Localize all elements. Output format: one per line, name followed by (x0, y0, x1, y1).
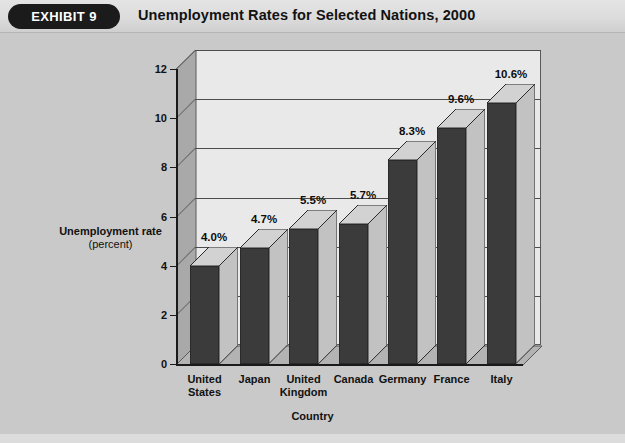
y-tick-label: 6 (161, 211, 167, 223)
bar-top-face (240, 229, 269, 248)
bar-front-face (240, 248, 269, 364)
exhibit-title: Unemployment Rates for Selected Nations,… (138, 7, 475, 23)
bar-top-face (339, 205, 368, 224)
bar-side-face (368, 205, 387, 364)
bar-front-face (487, 103, 516, 364)
y-tick-label: 8 (161, 161, 167, 173)
bar[interactable] (289, 210, 318, 364)
bar-value-label: 5.5% (300, 194, 326, 206)
chart-area: Unemployment rate (percent) 024681012 4.… (0, 33, 625, 443)
bar[interactable] (388, 141, 417, 364)
bar-side-face (318, 210, 337, 364)
bar-top-face (388, 141, 417, 160)
exhibit-badge: EXHIBIT 9 (8, 4, 120, 29)
x-axis-label-line: Kingdom (269, 386, 339, 399)
bar-front-face (339, 224, 368, 364)
x-axis-line (176, 364, 523, 366)
y-tick-mark (170, 266, 176, 267)
bar-value-label: 4.7% (251, 213, 277, 225)
exhibit-header: EXHIBIT 9 Unemployment Rates for Selecte… (0, 0, 625, 33)
bar-front-face (437, 128, 466, 364)
bar-value-label: 10.6% (495, 68, 528, 80)
bar-front-face (190, 266, 219, 364)
x-axis-label-line: States (170, 386, 240, 399)
footer-sliver (0, 434, 625, 443)
bar-top-face (487, 84, 516, 103)
y-tick-mark (170, 217, 176, 218)
y-tick-mark (170, 69, 176, 70)
y-axis-title: Unemployment rate (percent) (58, 225, 163, 250)
bar[interactable] (437, 109, 466, 364)
y-tick-mark (170, 167, 176, 168)
y-tick-label: 12 (155, 63, 167, 75)
y-axis-title-main: Unemployment rate (58, 225, 163, 238)
y-tick-mark (170, 315, 176, 316)
bar-top-face (437, 109, 466, 128)
x-axis-label-line: Italy (467, 373, 537, 386)
bar-top-face (289, 210, 318, 229)
gridline (195, 50, 541, 51)
bar-value-label: 9.6% (448, 93, 474, 105)
y-tick-mark (170, 364, 176, 365)
bar[interactable] (339, 205, 368, 364)
y-tick-label: 0 (161, 358, 167, 370)
y-tick-label: 4 (161, 260, 167, 272)
bar-side-face (417, 141, 436, 364)
bar-value-label: 4.0% (201, 231, 227, 243)
bar[interactable] (240, 229, 269, 364)
bar-value-label: 8.3% (399, 125, 425, 137)
y-axis-title-unit: (percent) (58, 238, 163, 251)
bar[interactable] (190, 247, 219, 364)
bar[interactable] (487, 84, 516, 364)
bar-side-face (516, 84, 535, 364)
bar-side-face (466, 109, 485, 364)
y-axis-line (176, 69, 178, 365)
bar-top-face (190, 247, 219, 266)
x-axis-title: Country (0, 410, 625, 422)
bar-front-face (388, 160, 417, 364)
x-axis-label-italy: Italy (467, 373, 537, 386)
y-tick-mark (170, 118, 176, 119)
y-tick-label: 2 (161, 309, 167, 321)
bar-front-face (289, 229, 318, 364)
plot-3d: 024681012 4.0%4.7%5.5%5.7%8.3%9.6%10.6% (176, 69, 522, 364)
bar-side-face (269, 229, 288, 364)
bar-value-label: 5.7% (350, 189, 376, 201)
y-tick-label: 10 (155, 112, 167, 124)
